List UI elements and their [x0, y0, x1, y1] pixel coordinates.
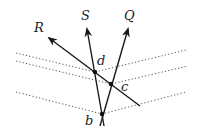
point-b	[100, 112, 104, 116]
rays	[49, 29, 140, 126]
point-label-b: b	[85, 113, 93, 128]
ray-label-q: Q	[124, 8, 135, 23]
point-d	[93, 70, 97, 74]
point-c	[109, 82, 113, 86]
labels: dcbRSQ	[33, 8, 135, 128]
geometry-diagram: dcbRSQ	[0, 0, 199, 137]
ray-label-r: R	[33, 20, 44, 35]
point-label-d: d	[97, 53, 105, 68]
ray-q	[100, 29, 128, 126]
ray-label-s: S	[81, 8, 90, 23]
point-label-c: c	[121, 79, 129, 94]
